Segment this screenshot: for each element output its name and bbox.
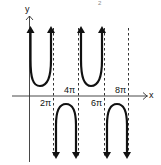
branch-down-2 <box>107 104 127 153</box>
branch-up-2 <box>81 32 102 86</box>
x-axis-label: x <box>149 91 154 100</box>
secant-graph <box>0 0 161 165</box>
tick-label-6pi: 6π <box>91 99 102 108</box>
tick-label-4pi: 4π <box>64 86 75 95</box>
tick-label-8pi: 8π <box>115 86 126 95</box>
arrow-up-icon <box>27 26 35 33</box>
arrow-down-icon <box>123 152 131 159</box>
tick-label-2pi: 2π <box>40 99 51 108</box>
x-axis <box>12 93 148 100</box>
y-axis-label: y <box>25 5 30 14</box>
branch-up-1 <box>31 32 52 86</box>
branch-down-1 <box>56 104 76 153</box>
